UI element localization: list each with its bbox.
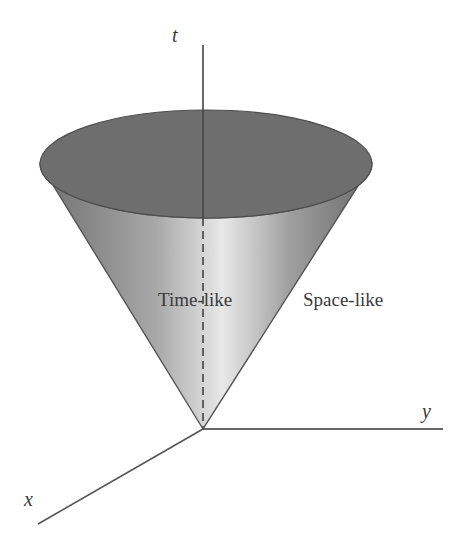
x-axis: [38, 429, 203, 524]
x-axis-label: x: [23, 488, 33, 510]
light-cone-diagram: t y x Time-like Space-like: [0, 0, 458, 547]
y-axis-label: y: [420, 400, 431, 423]
time-like-label: Time-like: [158, 289, 232, 310]
t-axis-label: t: [172, 24, 178, 46]
cone-top: [40, 110, 372, 218]
space-like-label: Space-like: [303, 289, 383, 310]
